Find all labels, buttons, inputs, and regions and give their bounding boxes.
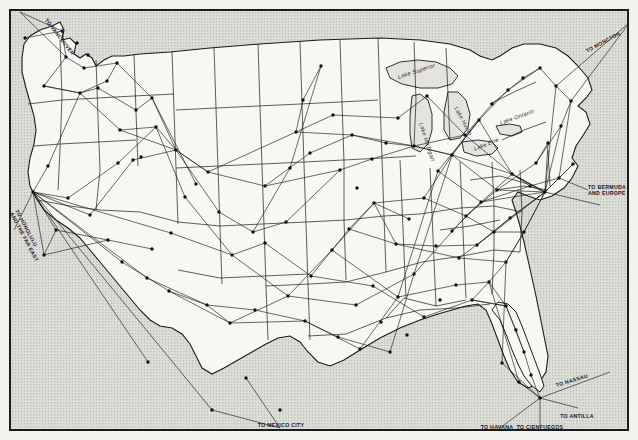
city-dot (554, 84, 557, 87)
city-dot (263, 241, 266, 244)
city-dot (154, 125, 157, 128)
city-dot (309, 274, 312, 277)
city-dot (228, 321, 231, 324)
city-dot (54, 228, 57, 231)
city-dot (500, 361, 503, 364)
city-dot (350, 133, 353, 136)
city-dot (546, 141, 549, 144)
city-dot (145, 276, 148, 279)
city-dot (508, 216, 511, 219)
city-dot (150, 96, 153, 99)
us-route-map (0, 0, 638, 440)
city-dot (495, 188, 498, 191)
city-dot (514, 328, 517, 331)
city-dot (134, 108, 137, 111)
destination-label: TO HAVANA (481, 424, 514, 430)
city-dot (294, 130, 297, 133)
city-dot (331, 113, 334, 116)
city-dot (358, 347, 361, 350)
city-dot (174, 148, 177, 151)
city-dot (75, 41, 78, 44)
city-dot (454, 283, 457, 286)
city-dot (146, 360, 149, 363)
city-dot (434, 244, 437, 247)
city-dot (394, 242, 397, 245)
city-dot (521, 76, 524, 79)
city-dot (263, 184, 266, 187)
city-dot (88, 213, 91, 216)
city-dot (504, 260, 507, 263)
city-dot (64, 55, 67, 58)
city-dot (303, 319, 306, 322)
city-dot (139, 155, 142, 158)
city-dot (46, 164, 49, 167)
city-dot (253, 308, 256, 311)
city-dot (167, 289, 170, 292)
city-dot (206, 170, 209, 173)
city-dot (571, 162, 574, 165)
city-dot (115, 61, 118, 64)
city-dot (194, 182, 197, 185)
city-dot (244, 376, 247, 379)
city-dot (412, 144, 415, 147)
city-dot (66, 196, 69, 199)
city-dot (116, 161, 119, 164)
map-page: Lake SuperiorLake MichiganLake HuronLake… (0, 0, 638, 440)
city-dot (217, 210, 220, 213)
city-dot (569, 99, 572, 102)
city-dot (510, 172, 513, 175)
city-dot (354, 303, 357, 306)
city-dot (106, 238, 109, 241)
city-dot (23, 36, 26, 39)
city-dot (205, 303, 208, 306)
city-dot (450, 153, 453, 156)
city-dot (370, 157, 373, 160)
city-dot (538, 396, 541, 399)
city-dot (96, 86, 99, 89)
city-dot (528, 184, 531, 187)
city-dot (559, 124, 562, 127)
city-dot (396, 295, 399, 298)
city-dot (522, 350, 525, 353)
city-dot (150, 247, 153, 250)
city-dot (388, 350, 391, 353)
city-dot (529, 373, 532, 376)
city-dot (490, 102, 493, 105)
city-dot (372, 201, 375, 204)
city-dot (31, 190, 34, 193)
destination-label: TO MEXICO CITY (258, 422, 304, 428)
city-dot (336, 335, 339, 338)
city-dot (384, 141, 387, 144)
city-dot (286, 294, 289, 297)
city-dot (475, 243, 478, 246)
city-dot (450, 229, 453, 232)
city-dot (470, 298, 473, 301)
city-dot (371, 284, 374, 287)
city-dot (506, 88, 509, 91)
city-dot (464, 214, 467, 217)
city-dot (82, 66, 85, 69)
city-dot (479, 200, 482, 203)
city-dot (457, 256, 460, 259)
city-dot (183, 195, 186, 198)
city-dot (330, 248, 333, 251)
destination-label: TO ANTILLA (560, 413, 594, 419)
city-dot (319, 64, 322, 67)
city-dot (477, 118, 480, 121)
city-dot (412, 272, 415, 275)
city-dot (118, 128, 121, 131)
city-dot (288, 166, 291, 169)
city-dot (438, 298, 441, 301)
city-dot (210, 408, 213, 411)
city-dot (538, 66, 541, 69)
city-dot (284, 220, 287, 223)
city-dot (422, 196, 425, 199)
city-dot (338, 168, 341, 171)
city-dot (405, 333, 408, 336)
city-dot (534, 161, 537, 164)
city-dot (557, 176, 560, 179)
city-dot (407, 217, 410, 220)
city-dot (131, 158, 134, 161)
city-dot (436, 169, 439, 172)
city-dot (120, 260, 123, 263)
